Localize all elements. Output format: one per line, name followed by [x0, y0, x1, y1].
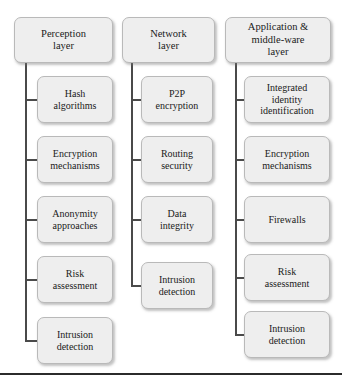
node-application-integrated-identity-identification[interactable]: Integrated identity identification	[244, 76, 330, 123]
stub-application-2	[235, 159, 244, 161]
bottom-divider	[0, 373, 342, 375]
node-network-routing-security[interactable]: Routing security	[141, 136, 213, 183]
trunk-application	[235, 62, 237, 336]
header-network[interactable]: Network layer	[122, 17, 215, 63]
node-network-data-integrity[interactable]: Data integrity	[141, 196, 213, 243]
stub-application-1	[235, 99, 244, 101]
layered-security-diagram: Perception layer Hash algorithms Encrypt…	[0, 0, 342, 387]
stub-application-4	[235, 277, 244, 279]
stub-network-4	[131, 285, 141, 287]
header-perception[interactable]: Perception layer	[14, 17, 113, 63]
node-application-firewalls[interactable]: Firewalls	[244, 196, 330, 243]
stub-application-3	[235, 219, 244, 221]
node-network-intrusion-detection[interactable]: Intrusion detection	[141, 262, 213, 309]
stub-network-3	[131, 219, 141, 221]
header-application[interactable]: Application & middle-ware layer	[225, 17, 331, 63]
node-perception-hash-algorithms[interactable]: Hash algorithms	[37, 76, 113, 123]
trunk-network	[131, 62, 133, 287]
stub-network-1	[131, 99, 141, 101]
node-application-intrusion-detection[interactable]: Intrusion detection	[244, 311, 330, 358]
stub-network-2	[131, 159, 141, 161]
stub-application-5	[235, 334, 244, 336]
node-perception-risk-assessment[interactable]: Risk assessment	[37, 256, 113, 303]
node-perception-anonymity-approaches[interactable]: Anonymity approaches	[37, 196, 113, 243]
trunk-perception	[25, 62, 27, 342]
node-network-p2p-encryption[interactable]: P2P encryption	[141, 76, 213, 123]
node-application-risk-assessment[interactable]: Risk assessment	[244, 254, 330, 301]
node-perception-intrusion-detection[interactable]: Intrusion detection	[37, 317, 113, 364]
node-application-encryption-mechanisms[interactable]: Encryption mechanisms	[244, 136, 330, 183]
node-perception-encryption-mechanisms[interactable]: Encryption mechanisms	[37, 136, 113, 183]
